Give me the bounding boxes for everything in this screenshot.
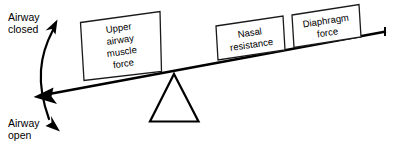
label-airway-open: Airway open [8, 117, 40, 141]
airway-open-line-1: Airway [8, 117, 40, 129]
airway-open-line-2: open [8, 129, 32, 141]
block-upper-airway-muscle-force: Upper airway muscle force [81, 12, 162, 81]
diagram-canvas: Upper airway muscle force Nasal resistan… [0, 0, 402, 149]
seesaw-diagram: Upper airway muscle force Nasal resistan… [0, 0, 402, 149]
rotation-arrow-group [41, 20, 60, 132]
fulcrum-group [150, 74, 199, 122]
triangle-icon [150, 74, 199, 122]
airway-closed-line-2: closed [8, 23, 39, 35]
airway-closed-line-1: Airway [8, 11, 40, 23]
curved-double-arrow-icon [41, 31, 53, 119]
block-diaphragm-force: Diaphragm force [292, 5, 361, 48]
left-arrowhead-icon [34, 88, 58, 105]
label-airway-closed: Airway closed [8, 11, 40, 35]
